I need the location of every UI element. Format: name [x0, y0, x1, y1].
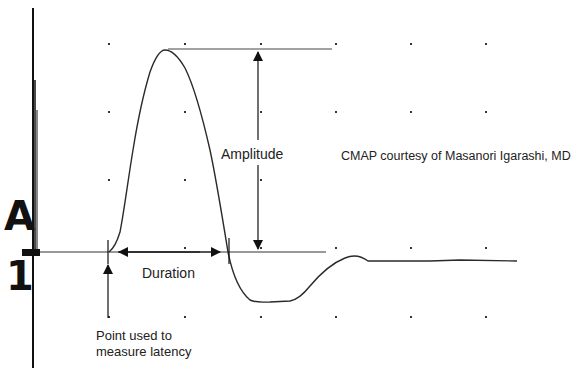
marker-number: 1 — [6, 256, 34, 296]
stimulus-axis — [33, 8, 37, 368]
amplitude-label: Amplitude — [221, 146, 283, 162]
duration-label: Duration — [142, 265, 195, 281]
marker-letter: A — [4, 196, 35, 236]
duration-arrow — [108, 238, 229, 264]
credit-label: CMAP courtesy of Masanori Igarashi, MD — [341, 148, 571, 164]
latency-label: Point used to measure latency — [96, 328, 191, 360]
